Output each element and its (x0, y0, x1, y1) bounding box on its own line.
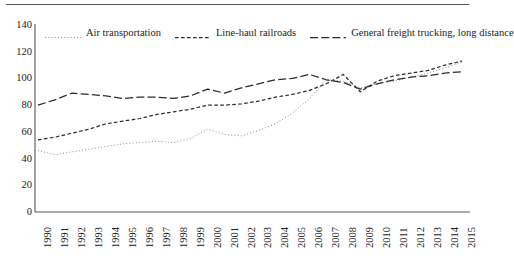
x-tick-label: 2012 (415, 227, 426, 248)
x-tick-label: 2002 (246, 227, 257, 248)
x-tick-label: 1999 (195, 227, 206, 248)
y-tick-label: 100 (2, 72, 32, 83)
x-tick-label: 2004 (279, 227, 290, 248)
y-tick-label: 120 (2, 46, 32, 57)
x-tick-label: 2008 (347, 227, 358, 248)
x-tick-label: 1991 (59, 227, 70, 248)
y-tick-label: 0 (2, 206, 32, 217)
x-tick-label: 2006 (313, 227, 324, 248)
x-tick-label: 2001 (229, 227, 240, 248)
y-tick-label: 40 (2, 153, 32, 164)
x-tick-label: 2015 (466, 227, 477, 248)
x-tick-label: 1996 (144, 227, 155, 248)
y-tick-label: 60 (2, 126, 32, 137)
x-tick-label: 1990 (42, 227, 53, 248)
x-tick-label: 2010 (381, 227, 392, 248)
x-tick-label: 2005 (296, 227, 307, 248)
x-tick-label: 2014 (449, 227, 460, 248)
series-line-0 (38, 62, 462, 154)
x-tick-label: 2011 (398, 227, 409, 248)
y-tick-label: 80 (2, 99, 32, 110)
x-tick-label: 2013 (432, 227, 443, 248)
x-tick-label: 2003 (262, 227, 273, 248)
x-tick-label: 1995 (127, 227, 138, 248)
chart-axes (35, 24, 470, 212)
x-tick-label: 1992 (76, 227, 87, 248)
y-tick-label: 20 (2, 179, 32, 190)
x-tick-label: 1998 (178, 227, 189, 248)
x-tick-label: 1994 (110, 227, 121, 248)
x-tick-label: 2009 (364, 227, 375, 248)
x-tick-label: 2000 (212, 227, 223, 248)
series-line-1 (38, 61, 462, 140)
series-line-2 (38, 72, 462, 105)
x-tick-label: 1993 (93, 227, 104, 248)
y-tick-label: 140 (2, 19, 32, 30)
x-tick-label: 1997 (161, 227, 172, 248)
x-tick-label: 2007 (330, 227, 341, 248)
